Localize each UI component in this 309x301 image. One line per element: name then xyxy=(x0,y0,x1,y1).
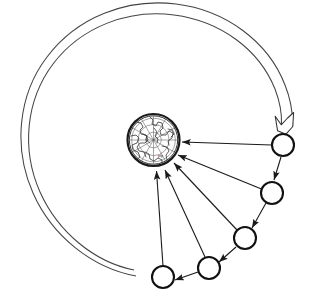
earth-globe[interactable]: ply xyxy=(128,114,180,166)
crosslink-1-2[interactable] xyxy=(274,157,281,180)
satellite-5[interactable] xyxy=(152,266,174,288)
downlink-4[interactable] xyxy=(165,170,205,257)
crosslink-3-4[interactable] xyxy=(219,247,236,262)
orbit-arc-arrowhead xyxy=(275,113,293,135)
satellite-2[interactable] xyxy=(261,182,283,204)
downlink-5[interactable] xyxy=(157,171,164,266)
downlink-3[interactable] xyxy=(174,163,237,230)
satellite-orbit-diagram: ply xyxy=(0,0,309,301)
downlink-1[interactable] xyxy=(182,142,272,145)
downlinks xyxy=(157,142,272,266)
satellite-1[interactable] xyxy=(272,134,294,156)
crosslink-2-3[interactable] xyxy=(252,203,266,228)
satellite-4[interactable] xyxy=(198,257,220,279)
satellite-3[interactable] xyxy=(234,227,256,249)
downlink-2[interactable] xyxy=(178,155,262,189)
crosslink-4-5[interactable] xyxy=(175,272,198,280)
globe-map-label: ply xyxy=(158,153,163,158)
diagram-canvas: ply xyxy=(0,0,309,301)
